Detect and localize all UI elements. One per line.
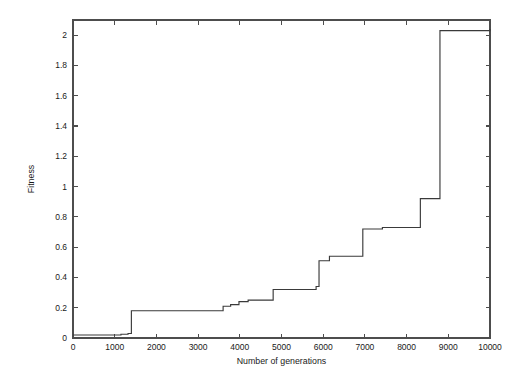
x-tick-label: 9000 — [439, 342, 458, 352]
series-best-fitness — [73, 29, 490, 335]
figure-container: 0100020003000400050006000700080009000100… — [0, 0, 505, 381]
y-tick-label: 0.6 — [55, 242, 67, 252]
axes-box — [73, 20, 490, 338]
x-tick-label: 0 — [71, 342, 76, 352]
y-axis-tick-labels: 00.20.40.60.811.21.41.61.82 — [55, 30, 67, 343]
y-tick-label: 0 — [62, 333, 67, 343]
y-tick-label: 1.2 — [55, 151, 67, 161]
x-tick-label: 3000 — [189, 342, 208, 352]
x-tick-label: 4000 — [230, 342, 249, 352]
x-axis-label: Number of generations — [237, 356, 327, 366]
x-tick-label: 1000 — [105, 342, 124, 352]
y-axis-ticks — [73, 35, 490, 338]
y-tick-label: 0.4 — [55, 272, 67, 282]
x-axis-ticks — [73, 20, 490, 338]
y-axis-label: Fitness — [26, 164, 36, 193]
x-tick-label: 6000 — [314, 342, 333, 352]
x-tick-label: 2000 — [147, 342, 166, 352]
fitness-line-chart: 0100020003000400050006000700080009000100… — [0, 0, 505, 381]
x-tick-label: 7000 — [355, 342, 374, 352]
plot-frame — [73, 20, 490, 338]
x-tick-label: 8000 — [397, 342, 416, 352]
y-tick-label: 0.2 — [55, 303, 67, 313]
y-tick-label: 1.8 — [55, 60, 67, 70]
y-tick-label: 1 — [62, 182, 67, 192]
data-series-group — [73, 29, 490, 335]
y-tick-label: 2 — [62, 30, 67, 40]
x-tick-label: 5000 — [272, 342, 291, 352]
y-tick-label: 1.4 — [55, 121, 67, 131]
x-tick-label: 10000 — [478, 342, 502, 352]
y-tick-label: 1.6 — [55, 91, 67, 101]
x-axis-tick-labels: 0100020003000400050006000700080009000100… — [71, 342, 502, 352]
y-tick-label: 0.8 — [55, 212, 67, 222]
